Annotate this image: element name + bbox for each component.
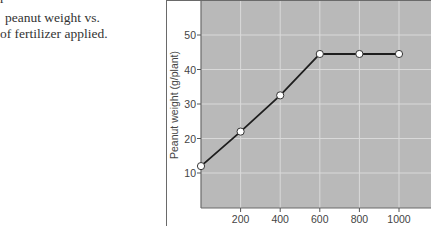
x-tick-label: 200 [232,213,250,225]
data-point-marker [237,128,244,135]
x-tick-label: 400 [271,213,289,225]
y-tick-label: 20 [184,133,196,145]
data-point-marker [277,92,284,99]
x-tick-label: 600 [311,213,329,225]
y-tick-label: 40 [184,64,196,76]
line-chart [0,0,431,226]
plot-area [197,0,431,212]
data-point-marker [197,163,204,170]
x-tick-label: 1000 [387,213,410,225]
data-point-marker [356,50,363,57]
y-tick-label: 50 [184,29,196,41]
data-point-marker [316,50,323,57]
frame-border-top [166,0,431,1]
y-axis-label: Peanut weight (g/plant) [168,51,180,159]
frame-border-left [166,0,167,226]
x-tick-label: 800 [351,213,369,225]
data-point-marker [395,50,402,57]
y-tick-label: 10 [184,167,196,179]
y-tick-label: 30 [184,98,196,110]
